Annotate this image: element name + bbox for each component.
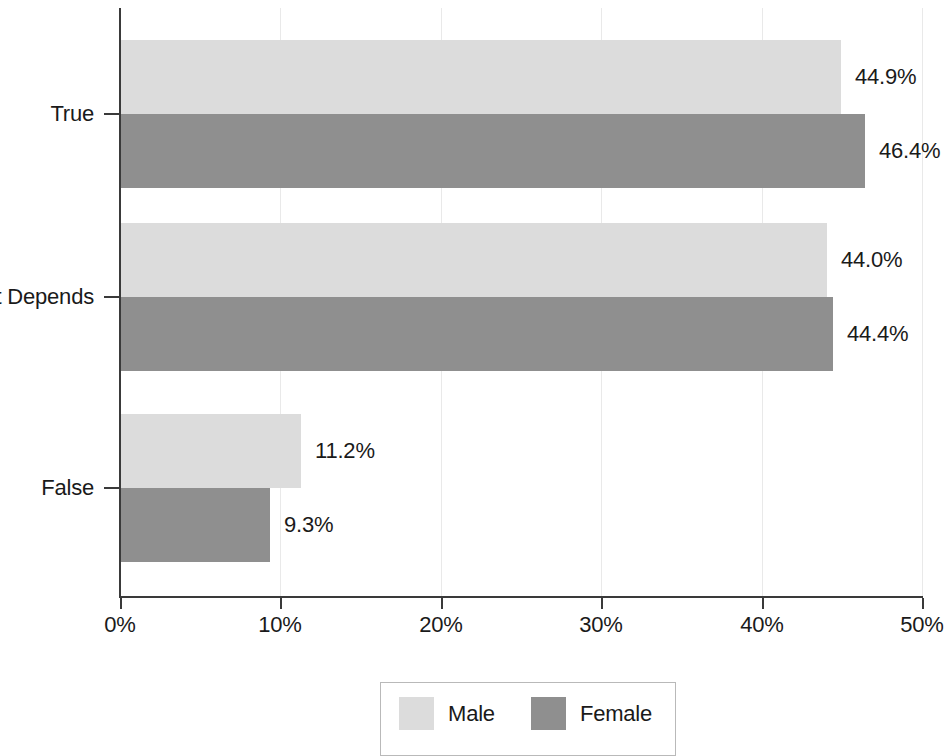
x-axis-tick — [762, 598, 764, 609]
legend-item[interactable]: Male — [399, 697, 495, 730]
x-axis-tick — [922, 598, 924, 609]
x-axis-tick-label: 10% — [258, 612, 301, 638]
x-axis-tick-label: 40% — [740, 612, 783, 638]
x-axis-tick — [441, 598, 443, 609]
x-axis-tick — [120, 598, 122, 609]
legend-label: Male — [448, 701, 495, 727]
bar — [121, 223, 827, 297]
bar — [121, 488, 270, 562]
legend-swatch-icon — [531, 697, 566, 730]
y-axis-category-label: True — [50, 101, 94, 127]
bar-value-label: 11.2% — [315, 438, 375, 464]
bar — [121, 414, 301, 488]
bar — [121, 114, 865, 188]
bar-value-label: 46.4% — [879, 138, 940, 164]
bar — [121, 297, 833, 371]
y-axis-tick — [104, 113, 120, 115]
bar-value-label: 9.3% — [284, 512, 333, 538]
x-axis-tick — [280, 598, 282, 609]
legend-items: MaleFemale — [381, 683, 675, 755]
bar — [121, 40, 841, 114]
legend-swatch-icon — [399, 697, 434, 730]
x-axis-line — [120, 596, 923, 598]
bar-value-label: 44.4% — [847, 321, 908, 347]
legend-item[interactable]: Female — [531, 697, 652, 730]
bar-value-label: 44.0% — [841, 247, 902, 273]
x-axis-tick-label: 30% — [579, 612, 622, 638]
bar-value-label: 44.9% — [855, 64, 916, 90]
y-axis-category-label: It Depends — [0, 284, 94, 310]
legend-label: Female — [580, 701, 652, 727]
gridline — [922, 8, 923, 597]
x-axis-tick-label: 0% — [104, 612, 135, 638]
legend: MaleFemale — [380, 682, 676, 756]
y-axis-tick — [104, 487, 120, 489]
x-axis-tick-label: 50% — [900, 612, 943, 638]
x-axis-tick-label: 20% — [419, 612, 462, 638]
y-axis-category-label: False — [41, 475, 94, 501]
x-axis-tick — [601, 598, 603, 609]
y-axis-tick — [104, 296, 120, 298]
